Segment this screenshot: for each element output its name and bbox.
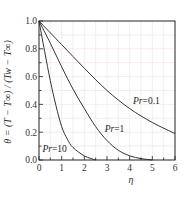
curve-label: Pr=10: [41, 144, 67, 154]
y-axis-label: θ = (T − T∞) / (Tw − T∞): [2, 40, 14, 144]
y-tick-label: 0.8: [25, 44, 37, 54]
x-tick-label: 0: [37, 163, 42, 173]
y-tick-label: 0.4: [25, 100, 37, 110]
curve-label: Pr=0.1: [132, 96, 160, 106]
y-tick-labels: 0.00.20.40.60.81.0: [25, 16, 37, 165]
x-tick-label: 5: [150, 163, 155, 173]
y-tick-label: 1.0: [25, 16, 37, 26]
curve-labels: Pr=0.1Pr=1Pr=10: [41, 96, 160, 153]
y-tick-label: 0.0: [25, 155, 37, 165]
x-tick-label: 2: [82, 163, 87, 173]
x-tick-label: 6: [173, 163, 178, 173]
x-tick-label: 1: [59, 163, 64, 173]
x-tick-label: 4: [127, 163, 132, 173]
x-tick-labels: 0123456: [37, 163, 178, 173]
x-tick-label: 3: [105, 163, 110, 173]
y-tick-label: 0.6: [25, 72, 37, 82]
curve-label: Pr=1: [104, 124, 125, 134]
line-chart: 0123456 0.00.20.40.60.81.0 Pr=0.1Pr=1Pr=…: [0, 0, 189, 198]
x-axis-label: η: [129, 174, 134, 185]
y-tick-label: 0.2: [25, 128, 37, 138]
